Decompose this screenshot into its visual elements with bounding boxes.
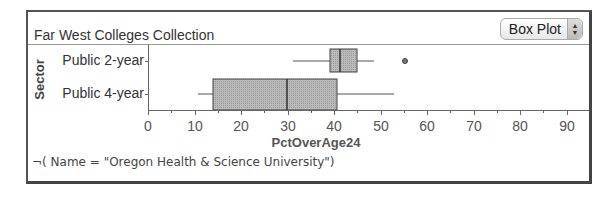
x-minor-tick — [218, 110, 219, 113]
x-tick-label: 40 — [326, 118, 342, 134]
x-tick-label: 70 — [466, 118, 482, 134]
x-axis-label[interactable]: PctOverAge24 — [272, 135, 361, 150]
category-label-public-2-year: Public 2-year — [34, 52, 144, 68]
x-tick — [474, 110, 475, 115]
x-minor-tick — [264, 110, 265, 113]
x-minor-tick — [171, 110, 172, 113]
x-tick-label: 30 — [280, 118, 296, 134]
box-public-4-year — [198, 79, 394, 110]
x-tick-label: 60 — [419, 118, 435, 134]
stepper-arrows-icon: ▲▼ — [567, 19, 582, 39]
x-tick — [381, 110, 382, 115]
collection-title: Far West Colleges Collection — [34, 27, 214, 43]
x-tick-label: 0 — [144, 118, 152, 134]
x-tick — [427, 110, 428, 115]
x-minor-tick — [404, 110, 405, 113]
x-tick — [334, 110, 335, 115]
x-tick — [148, 110, 149, 115]
x-tick-label: 80 — [512, 118, 528, 134]
box-public-2-year — [293, 49, 408, 72]
x-minor-tick — [450, 110, 451, 113]
x-tick — [195, 110, 196, 115]
category-label-public-4-year: Public 4-year — [34, 85, 144, 101]
x-tick — [288, 110, 289, 115]
x-tick-label: 20 — [233, 118, 249, 134]
x-tick-label: 50 — [373, 118, 389, 134]
plot-area[interactable] — [148, 45, 589, 111]
filter-formula: ¬( Name = "Oregon Health & Science Unive… — [32, 155, 335, 169]
x-tick-label: 10 — [187, 118, 203, 134]
x-tick-label: 90 — [559, 118, 575, 134]
x-minor-tick — [357, 110, 358, 113]
x-tick — [520, 110, 521, 115]
x-minor-tick — [311, 110, 312, 113]
x-minor-tick — [543, 110, 544, 113]
plot-type-dropdown[interactable]: Box Plot ▲▼ — [500, 18, 583, 40]
x-tick — [567, 110, 568, 115]
graph-window: Far West Colleges Collection Box Plot ▲▼… — [26, 10, 592, 184]
plot-type-label: Box Plot — [509, 21, 567, 37]
boxplot-svg — [149, 45, 589, 110]
x-tick — [241, 110, 242, 115]
x-minor-tick — [497, 110, 498, 113]
